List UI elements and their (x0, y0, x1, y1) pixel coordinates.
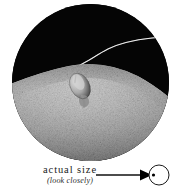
caption-block: actual size (look closely) (38, 165, 102, 185)
caption-look-closely-label: (look closely) (38, 177, 102, 185)
photo-content (12, 4, 169, 161)
leader-arrow-svg (94, 163, 183, 193)
caption-actual-size-label: actual size (38, 165, 102, 176)
circular-microphotograph (12, 4, 169, 161)
photo-artwork (12, 4, 169, 161)
actual-size-dot (152, 173, 155, 176)
magnified-specimen-figure: actual size (look closely) (0, 0, 183, 195)
leader-arrow (94, 163, 183, 193)
